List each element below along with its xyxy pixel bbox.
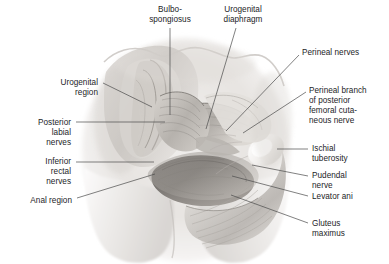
label-anal-region: Anal region [0,196,72,206]
label-inferior-rectal-nerves: Inferior rectal nerves [0,157,71,187]
label-urogenital-diaphragm: Urogenital diaphragm [215,5,271,25]
label-bulbospongiosus: Bulbo- spongiosus [144,5,196,25]
label-pudendal-nerve: Pudendal nerve [312,171,386,191]
label-gluteus-maximus: Gluteus maximus [312,219,386,239]
label-posterior-labial-nerves: Posterior labial nerves [0,118,71,148]
label-perineal-branch-posterior-femoral-cutaneous-nerve: Perineal branch of posterior femoral cut… [309,86,387,126]
label-urogenital-region: Urogenital region [16,78,98,98]
label-levator-ani: Levator ani [312,192,386,202]
label-perineal-nerves: Perineal nerves [302,48,384,58]
label-ischial-tuberosity: Ischial tuberosity [312,144,386,164]
anatomical-figure: Bulbo- spongiosusUrogenital diaphragmPer… [0,0,389,264]
